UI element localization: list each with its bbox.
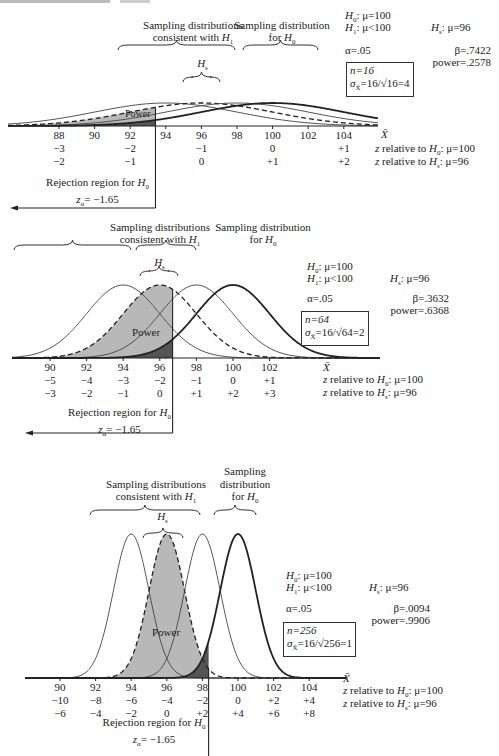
z-hs-value: +2 bbox=[218, 387, 248, 399]
z-hs-value: +3 bbox=[255, 387, 285, 399]
sample-size-box: n=256 σX̄=16/√256=1 bbox=[283, 622, 356, 657]
z-hs-value: −2 bbox=[72, 387, 102, 399]
alpha-value: α=.05 bbox=[345, 44, 371, 56]
x-tick-label: 104 bbox=[294, 681, 324, 693]
label-power: Power bbox=[125, 108, 151, 120]
x-tick-label: 100 bbox=[218, 361, 248, 373]
x-tick-label: 94 bbox=[108, 361, 138, 373]
z-h0-value: −4 bbox=[152, 694, 182, 706]
label-for-h0: distribution for H0 bbox=[205, 478, 285, 507]
z-hs-value: 0 bbox=[186, 155, 216, 167]
z-h0-value: −10 bbox=[45, 694, 75, 706]
x-tick-label: 100 bbox=[258, 129, 288, 141]
panel-n64: Sampling distributions consistent with H… bbox=[0, 215, 499, 440]
rejection-region-label: Rejection region for H0 zα= −1.65 bbox=[100, 716, 208, 750]
alpha-value: α=.05 bbox=[307, 292, 333, 304]
x-tick-label: 98 bbox=[222, 129, 252, 141]
xbar-axis-label: X̄ bbox=[323, 361, 330, 373]
z-hs-value: −6 bbox=[45, 707, 75, 719]
power-value: power=.2578 bbox=[400, 56, 491, 68]
label-hs: Hs bbox=[190, 57, 215, 74]
z-hs-value: 0 bbox=[145, 387, 175, 399]
z-rel-hs-label: z relative to Hs: μ=96 bbox=[343, 697, 437, 714]
x-tick-label: 94 bbox=[151, 129, 181, 141]
z-hs-value: +6 bbox=[259, 707, 289, 719]
z-hs-value: +1 bbox=[181, 387, 211, 399]
z-h0-value: −4 bbox=[72, 374, 102, 386]
z-hs-value: −3 bbox=[35, 387, 65, 399]
x-tick-label: 90 bbox=[80, 129, 110, 141]
x-tick-label: 94 bbox=[116, 681, 146, 693]
x-tick-label: 96 bbox=[186, 129, 216, 141]
x-tick-label: 96 bbox=[152, 681, 182, 693]
x-tick-label: 90 bbox=[35, 361, 65, 373]
z-hs-value: −1 bbox=[115, 155, 145, 167]
sample-size-box: n=16 σX̄=16/√16=4 bbox=[346, 62, 414, 97]
z-hs-value: +1 bbox=[258, 155, 288, 167]
z-h0-value: +1 bbox=[255, 374, 285, 386]
xbar-axis-label: X̄ bbox=[381, 128, 388, 140]
beta-value: β=.0094 bbox=[340, 602, 430, 614]
z-h0-value: −1 bbox=[181, 374, 211, 386]
x-tick-label: 96 bbox=[145, 361, 175, 373]
z-h0-value: −3 bbox=[108, 374, 138, 386]
beta-value: β=.7422 bbox=[400, 44, 491, 56]
x-tick-label: 102 bbox=[293, 129, 323, 141]
hs-statement: Hs: μ=96 bbox=[431, 21, 471, 38]
x-tick-label: 100 bbox=[223, 681, 253, 693]
z-h0-value: 0 bbox=[258, 142, 288, 154]
z-h0-value: 0 bbox=[218, 374, 248, 386]
z-hs-value: +2 bbox=[329, 155, 359, 167]
z-h0-value: +2 bbox=[259, 694, 289, 706]
x-tick-label: 102 bbox=[259, 681, 289, 693]
hs-statement: Hs: μ=96 bbox=[390, 272, 430, 289]
arrow-head-icon bbox=[10, 206, 18, 211]
hs-statement: Hs: μ=96 bbox=[369, 581, 409, 598]
z-h0-value: +1 bbox=[329, 142, 359, 154]
panel-n16: Sampling distributions consistent with H… bbox=[0, 0, 499, 215]
z-hs-value: −1 bbox=[108, 387, 138, 399]
alpha-value: α=.05 bbox=[286, 602, 312, 614]
x-tick-label: 98 bbox=[181, 361, 211, 373]
power-area bbox=[12, 285, 173, 358]
power-value: power=.6368 bbox=[360, 304, 449, 316]
arrow-head-icon bbox=[25, 431, 33, 436]
rejection-region-label: Rejection region for H0 zα= −1.65 bbox=[40, 176, 155, 210]
z-hs-value: −2 bbox=[44, 155, 74, 167]
label-power: Power bbox=[132, 326, 160, 338]
label-for-h0: Sampling distribution for H0 bbox=[232, 19, 332, 48]
label-for-h0: Sampling distribution for H0 bbox=[213, 221, 313, 250]
beta-value: β=.3632 bbox=[360, 292, 449, 304]
rejection-region-label: Rejection region for H0 zα= −1.65 bbox=[66, 406, 173, 440]
h1-statement: H1: μ<100 bbox=[286, 581, 332, 598]
z-h0-value: 0 bbox=[223, 694, 253, 706]
x-tick-label: 92 bbox=[81, 681, 111, 693]
z-h0-value: −8 bbox=[81, 694, 111, 706]
label-power: Power bbox=[152, 626, 180, 638]
z-h0-value: −1 bbox=[186, 142, 216, 154]
z-rel-hs-label: z relative to Hs: μ=96 bbox=[375, 155, 469, 172]
h1-statement: H1: μ<100 bbox=[307, 272, 353, 289]
label-sampling-h0-top: Sampling bbox=[215, 465, 275, 477]
x-tick-label: 102 bbox=[255, 361, 285, 373]
x-tick-label: 90 bbox=[45, 681, 75, 693]
x-tick-label: 88 bbox=[44, 129, 74, 141]
z-h0-value: −5 bbox=[35, 374, 65, 386]
label-hs: Hs bbox=[150, 510, 175, 527]
z-h0-value: +4 bbox=[294, 694, 324, 706]
xbar-axis-label: X̄ bbox=[343, 672, 350, 684]
label-consistent-h1: Sampling distributions consistent with H… bbox=[90, 221, 230, 250]
z-h0-value: −2 bbox=[187, 694, 217, 706]
x-tick-label: 92 bbox=[72, 361, 102, 373]
z-hs-value: +4 bbox=[223, 707, 253, 719]
z-h0-value: −3 bbox=[44, 142, 74, 154]
x-tick-label: 104 bbox=[329, 129, 359, 141]
x-tick-label: 92 bbox=[115, 129, 145, 141]
z-rel-hs-label: z relative to Hs: μ=96 bbox=[323, 386, 417, 403]
label-hs: Hs bbox=[147, 256, 172, 273]
z-h0-value: −2 bbox=[115, 142, 145, 154]
sample-size-box: n=64 σX̄=16/√64=2 bbox=[301, 311, 369, 346]
panel-n256: Sampling Sampling distributions consiste… bbox=[0, 440, 499, 756]
z-h0-value: −6 bbox=[116, 694, 146, 706]
x-tick-label: 98 bbox=[187, 681, 217, 693]
